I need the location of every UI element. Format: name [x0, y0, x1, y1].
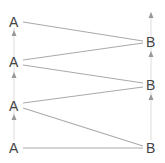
arrow-up-icon — [149, 12, 154, 18]
node-b-2: B — [146, 77, 155, 93]
edge — [23, 22, 143, 41]
node-b-3: B — [146, 140, 155, 156]
arrow-up-icon — [12, 30, 17, 36]
diagram-canvas: A A A A B B B — [0, 0, 165, 163]
node-a-3: A — [9, 98, 19, 114]
arrow-up-icon — [12, 72, 17, 78]
arrow-up-icon — [12, 114, 17, 120]
edge — [23, 43, 143, 60]
arrow-up-icon — [149, 51, 154, 57]
node-b-1: B — [146, 34, 155, 50]
node-a-4: A — [9, 140, 19, 156]
edge — [23, 108, 143, 146]
node-a-1: A — [9, 14, 19, 30]
edge — [23, 65, 143, 83]
node-a-2: A — [9, 54, 19, 70]
arrow-up-icon — [149, 94, 154, 100]
edge — [23, 87, 143, 103]
